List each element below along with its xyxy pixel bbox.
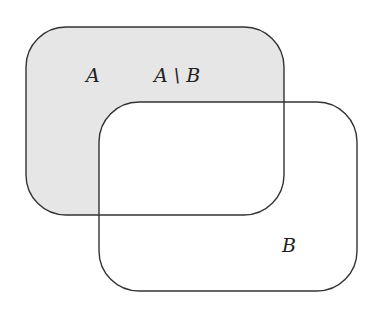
set-b-label: B — [281, 234, 296, 256]
venn-diagram: A A \ B B — [0, 0, 380, 313]
set-a-label: A — [84, 64, 100, 86]
set-a-shaded-region — [26, 27, 284, 215]
difference-label: A \ B — [152, 64, 200, 86]
